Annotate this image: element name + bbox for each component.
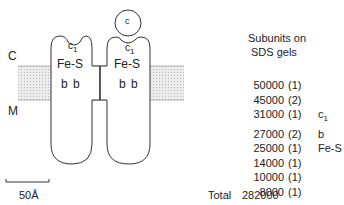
subunit-row: 14000(1) [248,156,342,171]
total-value: 282000 [242,189,279,201]
subunits-title-line2: SDS gels [251,46,297,58]
subunit-row: 45000(2) [248,93,342,108]
left-b-label: b b [61,78,80,90]
subunit-row: 50000(1) [248,78,342,93]
total-label: Total [208,189,231,201]
subunit-row: 25000(1)Fe-S [248,141,342,156]
right-b-label: b b [119,78,138,90]
scale-bar [6,179,49,182]
subunit-row: 27000(2)b [248,127,342,142]
subunit-row: 10000(1) [248,170,342,185]
cytoplasm-side-label: C [8,50,17,62]
left-c1-label: c1 [68,40,77,56]
cytochrome-c-label: c [125,15,130,27]
right-c1-label: c1 [125,42,134,58]
left-fes-label: Fe-S [57,58,83,70]
right-fes-label: Fe-S [114,58,140,70]
scale-bar-label: 50Å [19,189,39,201]
subunits-title-line1: Subunits on [248,32,306,44]
subunit-row: 31000(1)c1 [248,107,342,127]
matrix-side-label: M [8,105,18,117]
subunits-list: 50000(1) 45000(2) 31000(1)c1 27000(2)b 2… [248,78,342,199]
